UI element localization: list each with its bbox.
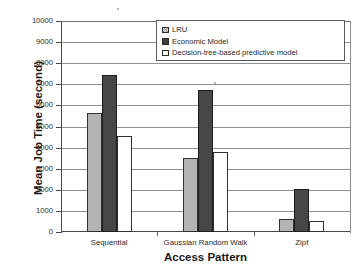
x-axis-tick — [157, 232, 158, 236]
y-axis-label: 3000 — [36, 165, 53, 173]
x-axis-label-sequential: Sequential — [61, 238, 157, 247]
y-axis-label: 10000 — [32, 17, 53, 25]
bar-gaussian-random-walk-economic-model — [198, 90, 213, 232]
bar-zipf-lru — [279, 219, 294, 232]
bar-sequential-decision-tree-based-predictive-model — [117, 136, 132, 232]
legend-entry-economic-model: Economic Model — [162, 36, 344, 48]
y-axis-label: 1000 — [36, 207, 53, 215]
legend-swatch-icon-lru — [162, 27, 169, 34]
x-axis-label-gaussian-random-walk: Gaussian Random Walk — [157, 238, 253, 247]
plot-right-border — [350, 21, 351, 233]
x-axis-title: Access Pattern — [61, 251, 350, 263]
y-axis-tick — [56, 232, 62, 233]
y-axis-label: 9000 — [36, 38, 53, 46]
legend-entry-lru: LRU — [162, 24, 344, 36]
x-axis-label-zipf: Zipf — [254, 238, 350, 247]
y-axis-label: 2000 — [36, 186, 53, 194]
y-axis-label: 6000 — [36, 101, 53, 109]
legend: LRU Economic Model Decision-tree-based p… — [156, 20, 345, 61]
legend-label-decision-tree-model: Decision-tree-based predictive model — [172, 48, 297, 57]
bar-chart: Mean Job Time (second) 10000900080007000… — [0, 0, 363, 277]
x-axis-tick — [254, 232, 255, 236]
bar-zipf-decision-tree-based-predictive-model — [309, 221, 324, 232]
legend-swatch-icon-economic-model — [162, 38, 169, 45]
bar-gaussian-random-walk-decision-tree-based-predictive-model — [213, 152, 228, 232]
y-axis-label: 7000 — [36, 80, 53, 88]
scan-speck — [117, 8, 119, 10]
legend-entry-decision-tree-model: Decision-tree-based predictive model — [162, 47, 344, 59]
y-axis-label: 0 — [49, 228, 53, 236]
legend-swatch-icon-decision-tree-model — [162, 50, 169, 57]
y-axis-label: 5000 — [36, 123, 53, 131]
bar-sequential-lru — [87, 113, 102, 232]
legend-label-economic-model: Economic Model — [172, 37, 228, 46]
y-axis-label: 4000 — [36, 144, 53, 152]
bar-gaussian-random-walk-lru — [183, 158, 198, 232]
y-axis-label: 8000 — [36, 59, 53, 67]
scan-speck — [214, 82, 216, 84]
legend-label-lru: LRU — [172, 25, 187, 34]
bar-zipf-economic-model — [294, 189, 309, 232]
bar-sequential-economic-model — [102, 75, 117, 232]
